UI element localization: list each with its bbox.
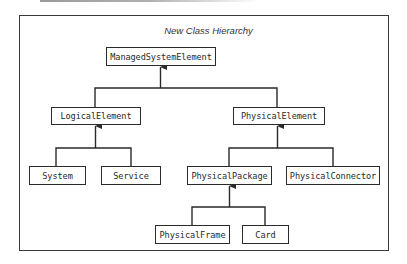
node-physical-element: PhysicalElement (233, 107, 325, 125)
node-system: System (29, 166, 86, 185)
node-physical-frame: PhysicalFrame (155, 225, 230, 244)
node-card: Card (242, 225, 289, 244)
node-physical-connector: PhysicalConnector (286, 166, 380, 185)
node-service: Service (101, 166, 161, 185)
node-logical-element: LogicalElement (51, 107, 141, 125)
node-physical-package: PhysicalPackage (187, 166, 272, 185)
node-managed-system-element: ManagedSystemElement (106, 47, 216, 66)
